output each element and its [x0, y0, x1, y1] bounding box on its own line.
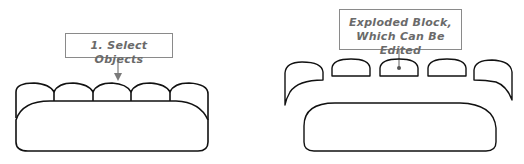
arrow-head-icon [114, 73, 122, 81]
callout-text: 1. Select Objects [66, 39, 172, 67]
cushion-piece-3 [428, 59, 466, 76]
exploded-block-callout: Exploded Block, Which Can Be Edited [339, 9, 462, 50]
left-arm-piece [285, 62, 323, 105]
sofa-block-intact [16, 58, 208, 151]
seat-base-piece [304, 103, 496, 151]
seat-base [16, 101, 208, 151]
select-objects-callout: 1. Select Objects [65, 33, 173, 58]
cushion-piece-1 [332, 59, 370, 76]
callout-line-1: Exploded Block, [340, 16, 461, 30]
sofa-block-exploded [285, 49, 512, 151]
right-arm-piece [474, 60, 512, 100]
leader-dot-icon [397, 66, 401, 70]
callout-line-2: Which Can Be Edited [340, 30, 461, 58]
